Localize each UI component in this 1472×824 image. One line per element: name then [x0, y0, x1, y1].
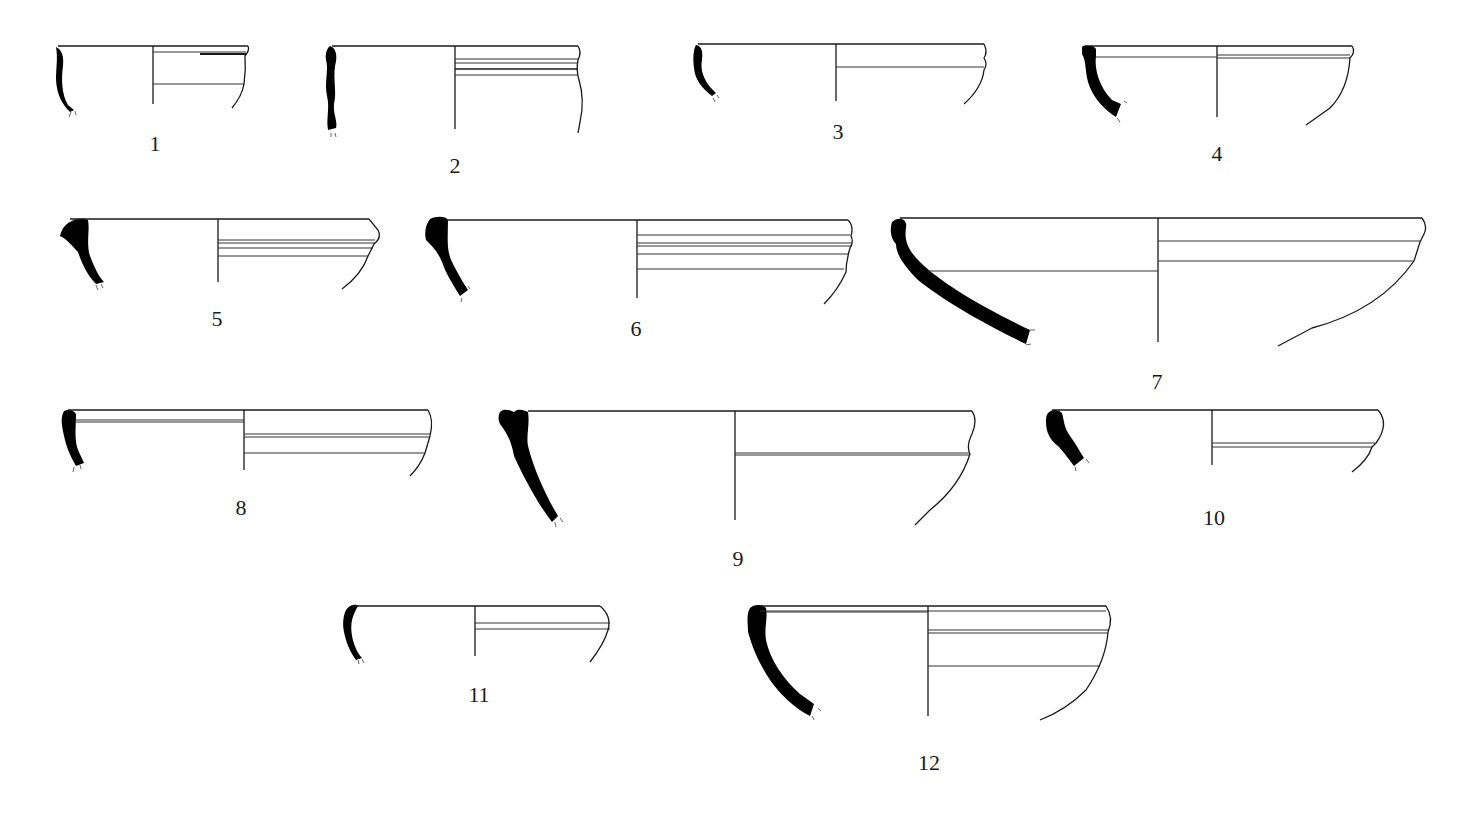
- vessel-4-profile: [1082, 45, 1354, 125]
- vessel-6-section: [425, 217, 468, 296]
- vessel-12-profile: [748, 605, 1111, 720]
- vessel-label-11: 11: [468, 684, 489, 706]
- vessel-1-section: [56, 47, 74, 112]
- vessel-5-section: [60, 219, 104, 284]
- vessel-2-profile: [326, 46, 583, 137]
- vessel-1-profile: [56, 46, 249, 117]
- vessel-2-section: [326, 46, 337, 130]
- vessel-label-7: 7: [1152, 371, 1163, 393]
- vessel-label-3: 3: [833, 121, 844, 143]
- vessel-11-profile: [343, 605, 610, 664]
- vessel-label-2: 2: [450, 155, 461, 177]
- vessel-8-section: [62, 410, 84, 466]
- vessel-10-section: [1046, 410, 1084, 466]
- vessel-label-6: 6: [631, 318, 642, 340]
- vessel-9-profile: [499, 410, 976, 527]
- vessel-8-profile: [62, 410, 432, 476]
- vessel-12-section: [748, 605, 815, 716]
- pottery-profile-plate: 1 2 3 4 5 6 7 8 9 10 11 12: [0, 0, 1472, 824]
- vessel-label-1: 1: [150, 133, 161, 155]
- vessel-6-profile: [425, 217, 852, 304]
- vessel-label-5: 5: [212, 308, 223, 330]
- vessel-9-section: [499, 410, 559, 522]
- vessel-label-8: 8: [236, 497, 247, 519]
- vessel-label-10: 10: [1203, 507, 1225, 529]
- vessel-5-profile: [60, 219, 379, 290]
- vessel-3-profile: [693, 44, 986, 104]
- profiles-drawing: [0, 0, 1472, 824]
- vessel-label-12: 12: [918, 752, 940, 774]
- vessel-7-profile: [891, 218, 1426, 346]
- vessel-3-section: [693, 45, 716, 96]
- vessel-label-9: 9: [733, 548, 744, 570]
- vessel-label-4: 4: [1212, 143, 1223, 165]
- vessel-10-profile: [1046, 410, 1384, 472]
- vessel-4-section: [1082, 45, 1121, 117]
- vessel-11-section: [343, 605, 362, 660]
- vessel-7-section: [891, 219, 1030, 344]
